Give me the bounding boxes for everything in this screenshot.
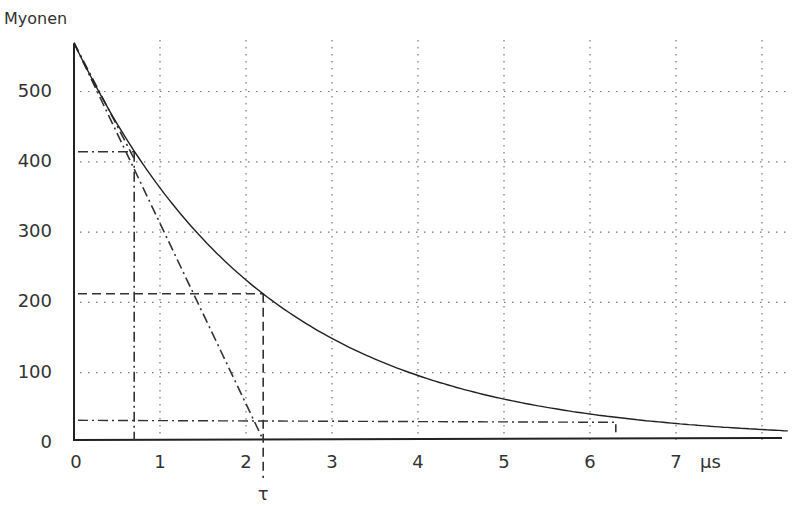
y-tick-label: 500 (18, 80, 52, 101)
grid (80, 40, 790, 440)
x-tick-label: 6 (584, 451, 595, 472)
x-tick-label: 2 (240, 451, 251, 472)
decay-chart: Myonen010020030040050001234567µsτ (0, 0, 793, 506)
y-tick-label: 300 (18, 220, 52, 241)
y-tick-label: 0 (41, 431, 52, 452)
x-tick-label: 1 (154, 451, 165, 472)
x-tick-label: 4 (412, 451, 423, 472)
axis-labels: Myonen010020030040050001234567µsτ (4, 9, 721, 504)
y-tick-label: 200 (18, 290, 52, 311)
x-tick-label: 7 (670, 451, 681, 472)
tangent-line (74, 43, 263, 440)
x-tick-label: 0 (70, 451, 81, 472)
x-unit-label: µs (700, 451, 721, 472)
y-axis-title: Myonen (4, 9, 67, 28)
x-tick-label: 3 (326, 451, 337, 472)
y-tick-label: 400 (18, 150, 52, 171)
y-tick-label: 100 (18, 361, 52, 382)
x-tick-label: 5 (498, 451, 509, 472)
tau-label: τ (258, 483, 269, 504)
guide-h-low (78, 420, 616, 422)
guide-lines (74, 43, 616, 478)
